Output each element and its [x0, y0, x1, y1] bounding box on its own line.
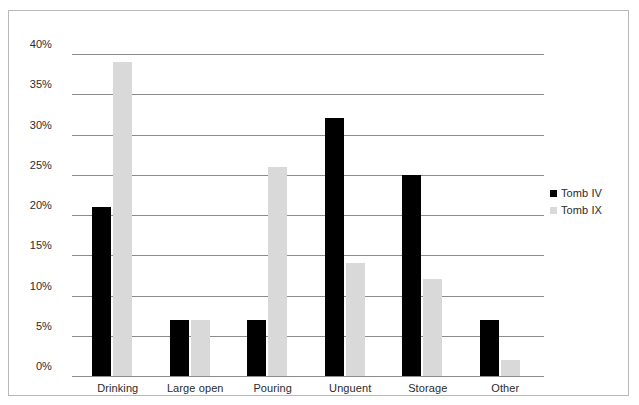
x-axis-tick-label: Other	[467, 383, 545, 394]
legend-swatch-icon	[550, 207, 557, 214]
legend-item-label: Tomb IX	[561, 205, 602, 216]
y-axis-tick	[72, 54, 79, 55]
y-axis-tick	[72, 215, 79, 216]
y-axis-tick-label: 0%	[6, 361, 52, 372]
bar-group	[312, 54, 390, 376]
chart-screenshot: 40%35%30%25%20%15%10%5%0% DrinkingLarge …	[0, 0, 639, 405]
bar-group	[234, 54, 312, 376]
x-axis-tick-label: Large open	[157, 383, 235, 394]
y-axis-tick-label: 15%	[6, 240, 52, 251]
bar	[501, 360, 520, 376]
bar	[423, 279, 442, 376]
y-axis-tick-label: 20%	[6, 200, 52, 211]
bar	[247, 320, 266, 376]
y-axis-tick-label: 30%	[6, 120, 52, 131]
legend-swatch-icon	[550, 190, 557, 197]
y-axis-tick	[72, 296, 79, 297]
y-axis-tick-label: 40%	[6, 39, 52, 50]
y-axis-tick	[72, 336, 79, 337]
bar	[346, 263, 365, 376]
plot-area	[79, 54, 544, 376]
chart-frame: 40%35%30%25%20%15%10%5%0% DrinkingLarge …	[8, 10, 629, 396]
legend-item-label: Tomb IV	[561, 188, 602, 199]
gridline	[79, 376, 544, 377]
y-axis-tick	[72, 255, 79, 256]
y-axis-tick-label: 5%	[6, 321, 52, 332]
x-axis-tick-label: Storage	[389, 383, 467, 394]
bar-group	[157, 54, 235, 376]
x-axis-tick-label: Unguent	[312, 383, 390, 394]
y-axis-tick-label: 35%	[6, 79, 52, 90]
bar	[170, 320, 189, 376]
y-axis-tick	[72, 376, 79, 377]
legend-item: Tomb IV	[550, 185, 602, 201]
y-axis-tick-label: 25%	[6, 160, 52, 171]
bar	[402, 175, 421, 376]
y-axis-tick	[72, 175, 79, 176]
y-axis-tick-label: 10%	[6, 281, 52, 292]
bar-group	[389, 54, 467, 376]
bar	[113, 62, 132, 376]
bar	[92, 207, 111, 376]
legend-item: Tomb IX	[550, 202, 602, 218]
y-axis-tick	[72, 135, 79, 136]
bar	[191, 320, 210, 376]
bar	[480, 320, 499, 376]
x-axis-tick-label: Drinking	[79, 383, 157, 394]
bar-group	[79, 54, 157, 376]
x-axis-tick-label: Pouring	[234, 383, 312, 394]
bar	[325, 118, 344, 376]
bar	[268, 167, 287, 376]
chart-legend: Tomb IVTomb IX	[550, 185, 602, 219]
bar-group	[467, 54, 545, 376]
bar-series-container	[79, 54, 544, 376]
y-axis-tick	[72, 94, 79, 95]
